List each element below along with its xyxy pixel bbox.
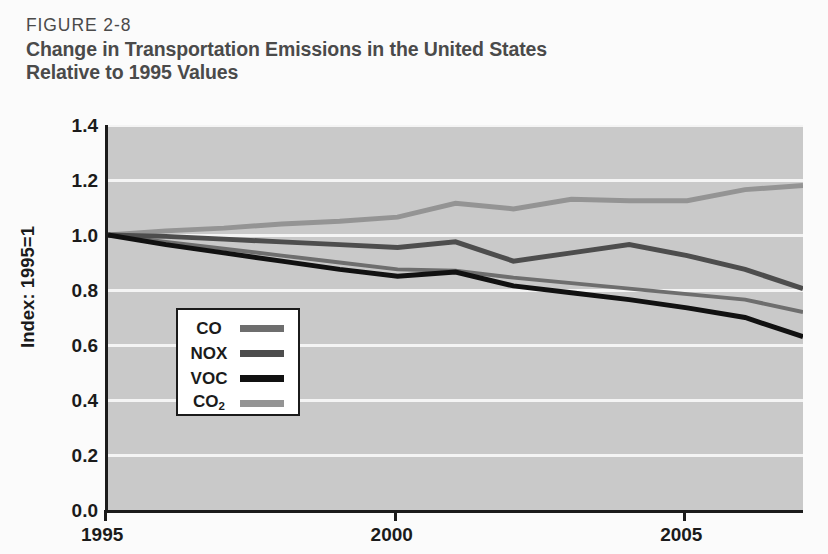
figure-title: Change in Transportation Emissions in th… [26,38,626,83]
series-line-co2 [108,186,803,236]
x-axis-tick-mark [683,510,686,521]
legend-item: VOC [178,366,298,391]
legend-item: CO [178,316,298,341]
y-axis-tick-label: 0.8 [54,281,98,300]
figure-header: FIGURE 2-8 Change in Transportation Emis… [26,14,786,83]
x-axis-tick-label: 2005 [660,524,702,546]
legend-item-swatch [240,325,284,332]
figure-container: FIGURE 2-8 Change in Transportation Emis… [0,0,828,554]
y-axis-tick-label: 1.0 [54,226,98,245]
y-axis-title: Index: 1995=1 [17,197,39,377]
legend-item-label: CO2 [178,393,240,415]
figure-title-line-2: Relative to 1995 Values [26,61,626,84]
legend-item: CO2 [178,391,298,416]
legend-item-subscript: 2 [219,400,225,412]
legend-item-label: CO [178,320,240,337]
series-line-nox [108,235,803,289]
legend-item-label: VOC [178,370,240,387]
legend-item-swatch [240,400,284,407]
figure-title-line-1: Change in Transportation Emissions in th… [26,38,626,61]
y-axis-tick-label: 0.0 [54,501,98,520]
chart-legend: CONOXVOCCO2 [176,308,300,416]
y-axis-tick-label: 0.6 [54,336,98,355]
y-axis-tick-label: 1.2 [54,171,98,190]
legend-item-swatch [240,375,284,382]
legend-item-label: NOX [178,345,240,362]
x-axis-tick-label: 1995 [81,524,123,546]
legend-item-swatch [240,350,284,357]
legend-item: NOX [178,341,298,366]
x-axis-tick-mark [394,510,397,521]
x-axis-tick-mark [104,510,107,521]
y-axis-tick-label: 1.4 [54,116,98,135]
x-axis-tick-label: 2000 [371,524,413,546]
y-axis-tick-label: 0.2 [54,446,98,465]
y-axis-tick-label: 0.4 [54,391,98,410]
y-axis-tick-labels: 0.00.20.40.60.81.01.21.4 [46,0,98,554]
figure-number: FIGURE 2-8 [26,14,786,36]
